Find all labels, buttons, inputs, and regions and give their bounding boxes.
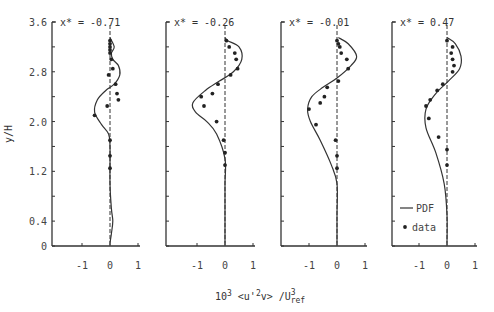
y-tick-label: 0.4 <box>29 216 47 227</box>
y-tick-label: 0 <box>41 241 47 252</box>
y-tick-label: 1.2 <box>29 166 47 177</box>
y-tick-label: 2.0 <box>29 117 47 128</box>
data-point <box>227 45 231 49</box>
data-point <box>345 57 349 61</box>
x-tick-label: 1 <box>135 260 141 271</box>
data-point <box>449 51 453 55</box>
pdf-curve <box>94 38 120 243</box>
data-point <box>325 85 329 89</box>
data-point <box>110 57 114 61</box>
data-point <box>314 123 318 127</box>
data-point <box>111 67 115 71</box>
data-point <box>229 73 233 77</box>
panel-3: -101x* = -0.01 <box>281 17 368 271</box>
data-point <box>108 51 112 55</box>
x-tick-label: -1 <box>76 260 88 271</box>
data-point <box>222 138 226 142</box>
data-point <box>216 82 220 86</box>
data-point <box>225 39 229 43</box>
data-point <box>337 79 341 83</box>
data-point <box>445 163 449 167</box>
data-point <box>441 82 445 86</box>
data-point <box>339 51 343 55</box>
data-point <box>435 89 439 93</box>
x-tick-label: 1 <box>362 260 368 271</box>
legend-marker-swatch <box>403 225 407 229</box>
data-point <box>428 98 432 102</box>
data-point <box>223 163 227 167</box>
x-tick-label: 0 <box>334 260 340 271</box>
panel-title: x* = -0.71 <box>60 17 120 28</box>
data-point <box>234 57 238 61</box>
data-point <box>211 92 215 96</box>
pdf-curve <box>192 38 242 243</box>
x-axis-label: 103 <u'2v> /U3ref <box>215 288 305 305</box>
data-point <box>199 95 203 99</box>
x-tick-label: 0 <box>107 260 113 271</box>
data-point <box>323 95 327 99</box>
data-point <box>451 70 455 74</box>
data-point <box>338 45 342 49</box>
x-tick-label: 1 <box>250 260 256 271</box>
x-tick-label: -1 <box>191 260 203 271</box>
chart-figure: 00.41.22.02.83.6y/H-101x* = -0.71-101x* … <box>0 0 494 312</box>
data-point <box>307 107 311 111</box>
data-point <box>334 138 338 142</box>
data-point <box>105 104 109 108</box>
data-point <box>202 104 206 108</box>
x-tick-label: 0 <box>222 260 228 271</box>
x-tick-label: -1 <box>413 260 425 271</box>
x-tick-label: 0 <box>444 260 450 271</box>
data-point <box>223 151 227 155</box>
data-point <box>233 51 237 55</box>
x-tick-label: 1 <box>472 260 478 271</box>
data-point <box>108 138 112 142</box>
x-tick-label: -1 <box>303 260 315 271</box>
data-point <box>346 67 350 71</box>
data-point <box>335 166 339 170</box>
data-point <box>451 45 455 49</box>
y-axis-label: y/H <box>3 125 14 143</box>
data-point <box>445 39 449 43</box>
data-point <box>114 82 118 86</box>
legend-label-data: data <box>412 222 436 233</box>
data-point <box>107 73 111 77</box>
data-point <box>335 154 339 158</box>
data-point <box>93 113 97 117</box>
data-point <box>424 104 428 108</box>
data-point <box>117 98 121 102</box>
data-point <box>427 117 431 121</box>
panel-2: -101x* = -0.26 <box>166 17 256 271</box>
data-point <box>318 101 322 105</box>
legend-label-pdf: PDF <box>416 203 434 214</box>
panel-title: x* = -0.26 <box>174 17 234 28</box>
data-point <box>445 148 449 152</box>
data-point <box>452 64 456 68</box>
data-point <box>108 166 112 170</box>
panel-title: x* = 0.47 <box>400 17 454 28</box>
data-point <box>451 57 455 61</box>
y-tick-label: 2.8 <box>29 67 47 78</box>
data-point <box>437 135 441 139</box>
data-point <box>115 92 119 96</box>
y-tick-label: 3.6 <box>29 17 47 28</box>
data-point <box>215 120 219 124</box>
panel-1: -101x* = -0.71 <box>52 17 141 271</box>
data-point <box>108 154 112 158</box>
data-point <box>236 67 240 71</box>
legend: PDFdata <box>400 203 436 233</box>
panel-title: x* = -0.01 <box>289 17 349 28</box>
